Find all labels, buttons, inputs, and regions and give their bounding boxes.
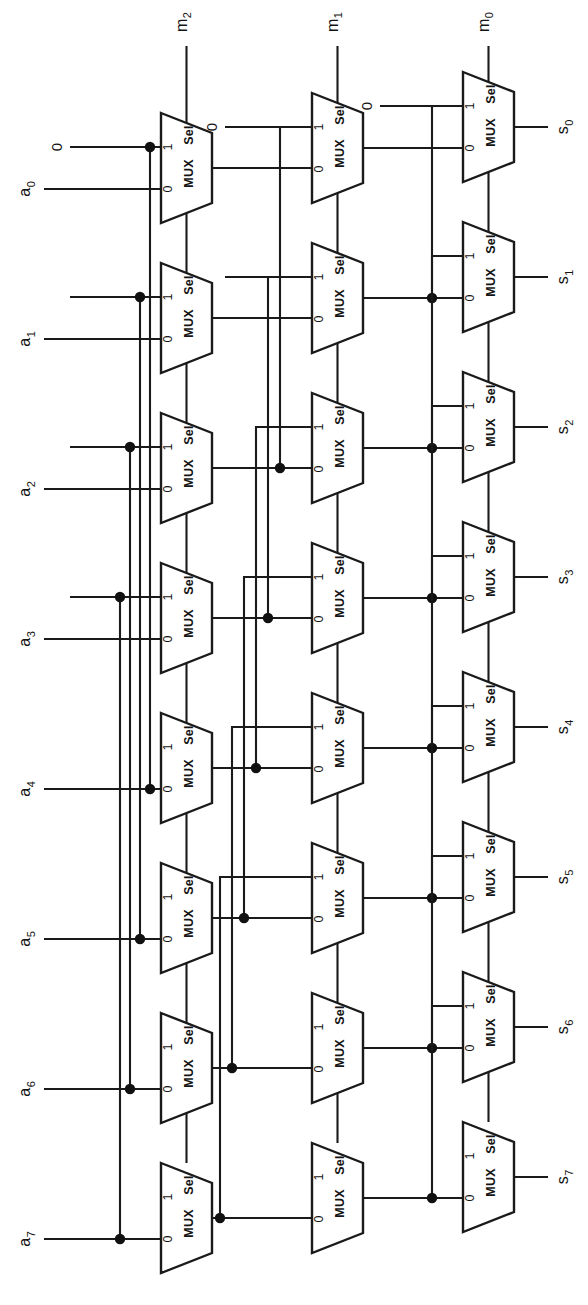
- input-label-a7-text: a7: [16, 1231, 37, 1247]
- mux-label-s0-r3: MUX: [182, 609, 196, 638]
- sel-label-s0-r4: Sel: [182, 725, 196, 744]
- input-label-a0-text: a0: [16, 181, 37, 197]
- mux-pin1-s0-r7: 1: [161, 1193, 175, 1200]
- mux-label-s0-r2: MUX: [182, 459, 196, 488]
- zero-label-s0: 0: [48, 143, 65, 151]
- shift4-route-r0: [150, 147, 161, 789]
- select-label-m1-text: m1: [324, 12, 345, 32]
- mux-pin1-s1-r5: 1: [312, 873, 326, 880]
- mux-label-s2-r3: MUX: [484, 568, 498, 597]
- sel-label-s1-r2: Sel: [333, 405, 347, 424]
- output-label-s5-text: s5: [554, 870, 575, 885]
- mux-label-s2-r4: MUX: [484, 718, 498, 747]
- mux-pin1-s2-r4: 1: [463, 702, 477, 709]
- output-label-s1-text: s1: [554, 270, 575, 285]
- mux-pin1-s2-r7: 1: [463, 1152, 477, 1159]
- shift1-route-r1: [432, 256, 463, 448]
- tap-dot-s0o4: [251, 763, 261, 773]
- sel-label-s0-r2: Sel: [182, 425, 196, 444]
- mux-pin1-s2-r5: 1: [463, 852, 477, 859]
- mux-pin1-s2-r1: 1: [463, 252, 477, 259]
- mux-pin1-s1-r6: 1: [312, 1023, 326, 1030]
- input-label-a6: a6: [16, 1081, 37, 1097]
- mux-label-s1-r2: MUX: [333, 439, 347, 468]
- shift2-route-r3: [244, 577, 312, 918]
- shift1-route-r6: [432, 1006, 463, 1198]
- shift4-route-r2: [130, 447, 161, 1089]
- mux-pin1-s2-r2: 1: [463, 402, 477, 409]
- mux-pin1-s1-r3: 1: [312, 573, 326, 580]
- output-label-s6-text: s6: [554, 1020, 575, 1035]
- mux-label-s0-r7: MUX: [182, 1209, 196, 1238]
- input-label-a6-text: a6: [16, 1081, 37, 1097]
- output-label-s5: s5: [554, 870, 575, 885]
- mux-label-s2-r5: MUX: [484, 868, 498, 897]
- output-label-s1: s1: [554, 270, 575, 285]
- shift1-route-r4: [432, 706, 463, 898]
- tap-dot-s0o5: [239, 913, 249, 923]
- tap-dot-a6: [125, 1084, 135, 1094]
- mux-pin1-s1-r1: 1: [312, 273, 326, 280]
- shift2-route-r5: [220, 877, 312, 1218]
- tap-dot-s0o7: [215, 1213, 225, 1223]
- mux-pin0-s1-r5: 0: [312, 915, 326, 922]
- output-label-s3: s3: [554, 570, 575, 585]
- mux-pin0-s1-r0: 0: [312, 165, 326, 172]
- mux-pin1-s0-r6: 1: [161, 1043, 175, 1050]
- mux-label-s1-r6: MUX: [333, 1039, 347, 1068]
- output-label-s7: s7: [554, 1170, 575, 1185]
- sel-label-s0-r3: Sel: [182, 575, 196, 594]
- input-label-a1: a1: [16, 331, 37, 347]
- sel-label-s2-r1: Sel: [484, 234, 498, 253]
- mux-label-s0-r1: MUX: [182, 309, 196, 338]
- mux-pin0-s2-r5: 0: [463, 894, 477, 901]
- sel-label-s2-r7: Sel: [484, 1134, 498, 1153]
- mux-pin1-s0-r3: 1: [161, 593, 175, 600]
- mux-pin0-s1-r7: 0: [312, 1215, 326, 1222]
- shift2-route-r0: [280, 127, 312, 468]
- output-label-s2: s2: [554, 420, 575, 435]
- mux-pin0-s0-r3: 0: [161, 635, 175, 642]
- zero-join-dot-s0-r3: [115, 592, 125, 602]
- sel-label-s2-r3: Sel: [484, 534, 498, 553]
- mux-pin1-s0-r1: 1: [161, 293, 175, 300]
- output-label-s2-text: s2: [554, 420, 575, 435]
- mux-pin0-s2-r0: 0: [463, 144, 477, 151]
- select-label-m1: m1: [324, 12, 345, 32]
- mux-label-s1-r4: MUX: [333, 739, 347, 768]
- input-label-a7: a7: [16, 1231, 37, 1247]
- input-label-a4: a4: [16, 781, 37, 797]
- mux-label-s0-r5: MUX: [182, 909, 196, 938]
- mux-label-s2-r7: MUX: [484, 1168, 498, 1197]
- mux-label-s0-r6: MUX: [182, 1059, 196, 1088]
- input-label-a5: a5: [16, 931, 37, 947]
- sel-label-s2-r6: Sel: [484, 984, 498, 1003]
- mux-label-s2-r1: MUX: [484, 268, 498, 297]
- output-label-s0-text: s0: [554, 120, 575, 135]
- sel-label-s0-r0: Sel: [182, 125, 196, 144]
- shift2-route-r2: [256, 427, 312, 768]
- sel-label-s2-r2: Sel: [484, 384, 498, 403]
- mux-pin0-s0-r2: 0: [161, 485, 175, 492]
- sel-label-s2-r4: Sel: [484, 684, 498, 703]
- mux-label-s1-r3: MUX: [333, 589, 347, 618]
- sel-label-s1-r0: Sel: [333, 105, 347, 124]
- generated-circuit: m2m1m0MUXSel10MUXSel10MUXSel10MUXSel10MU…: [16, 12, 575, 1273]
- zero-label-s1: 0: [203, 123, 220, 131]
- mux-label-s1-r7: MUX: [333, 1189, 347, 1218]
- mux-pin1-s2-r3: 1: [463, 552, 477, 559]
- input-label-a4-text: a4: [16, 781, 37, 797]
- input-label-a2-text: a2: [16, 481, 37, 497]
- input-label-a3: a3: [16, 631, 37, 647]
- select-label-m2-text: m2: [173, 12, 194, 32]
- sel-label-s1-r5: Sel: [333, 855, 347, 874]
- tap-dot-s0o2: [275, 463, 285, 473]
- mux-pin1-s2-r0: 1: [463, 102, 477, 109]
- mux-pin0-s1-r2: 0: [312, 465, 326, 472]
- tap-dot-s1o7: [427, 1193, 437, 1203]
- output-label-s6: s6: [554, 1020, 575, 1035]
- output-label-s4-text: s4: [554, 720, 575, 735]
- tap-dot-a5: [135, 934, 145, 944]
- input-label-a0: a0: [16, 181, 37, 197]
- select-label-m0-text: m0: [475, 12, 496, 32]
